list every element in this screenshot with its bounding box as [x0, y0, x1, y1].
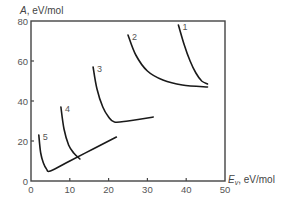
curve-5: [39, 135, 117, 171]
curve-3: [93, 67, 153, 122]
axis-ticks: 01020304050020406080: [17, 16, 230, 196]
curve-1: [178, 25, 207, 84]
x-tick-label: 40: [181, 184, 192, 195]
x-axis-title: Ev, eV/mol: [228, 174, 275, 186]
x-axis-title-unit: , eV/mol: [238, 174, 275, 185]
y-axis-title-unit: , eV/mol: [27, 5, 64, 16]
x-tick-label: 50: [220, 184, 231, 195]
x-tick-label: 30: [142, 184, 153, 195]
curve-labels: 12345: [43, 22, 188, 142]
y-tick-label: 20: [17, 136, 28, 147]
y-tick-label: 60: [17, 56, 28, 67]
plot-border: [31, 21, 225, 181]
y-tick-label: 80: [17, 16, 28, 27]
curve-label-1: 1: [182, 22, 187, 32]
chart: 01020304050020406080 12345 A, eV/mol Ev,…: [0, 0, 283, 204]
curve-label-4: 4: [65, 104, 70, 114]
curve-label-2: 2: [132, 32, 137, 42]
curves: [39, 25, 208, 171]
plot-frame: [31, 21, 225, 181]
curve-label-5: 5: [43, 132, 48, 142]
y-axis-title: A, eV/mol: [19, 5, 63, 16]
x-tick-label: 0: [28, 184, 33, 195]
x-tick-label: 10: [65, 184, 76, 195]
curve-4: [61, 107, 80, 159]
curve-label-3: 3: [97, 64, 102, 74]
y-tick-label: 0: [23, 176, 28, 187]
x-tick-label: 20: [103, 184, 114, 195]
y-tick-label: 40: [17, 96, 28, 107]
curve-2: [128, 35, 208, 87]
